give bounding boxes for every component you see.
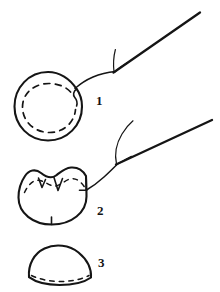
dashed-closure-line xyxy=(32,276,90,282)
needle-point-2 xyxy=(117,156,132,164)
needle-point-1 xyxy=(114,63,127,73)
pucker-notch-center xyxy=(54,178,63,191)
wound-outline-circle xyxy=(15,72,83,141)
needle-eye-1 xyxy=(114,50,116,73)
gathered-wound-outline xyxy=(19,167,87,224)
step-label-1: 1 xyxy=(96,94,103,107)
pucker-notch-left xyxy=(39,178,46,188)
dashed-purse-string-suture xyxy=(23,84,76,133)
straight-needle-shaft-2 xyxy=(116,120,212,165)
step-label-3: 3 xyxy=(98,256,105,269)
suture-exit-notch xyxy=(74,89,77,106)
suture-thread-1 xyxy=(75,72,116,89)
step-label-2: 2 xyxy=(97,204,104,217)
step-2-group xyxy=(19,120,213,225)
suture-thread-2 xyxy=(87,164,118,190)
surgical-technique-figure: 1 2 3 xyxy=(0,0,220,292)
step-1-group xyxy=(15,13,201,141)
step-3-group xyxy=(29,245,91,285)
figure-drawing-canvas xyxy=(0,0,220,292)
